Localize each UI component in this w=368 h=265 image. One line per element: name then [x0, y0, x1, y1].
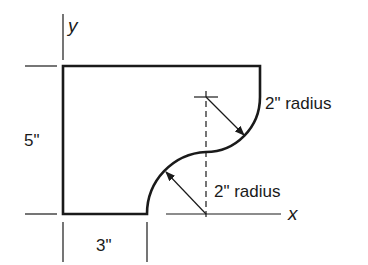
y-axis-label: y — [66, 15, 79, 36]
shape-diagram: y 5" 3" x 2" radius 2" radius — [0, 0, 368, 265]
lower-radius-label: 2" radius — [214, 182, 281, 201]
width-dimension-label: 3" — [96, 236, 112, 255]
height-dimension-label: 5" — [24, 131, 40, 150]
upper-radius-arrow — [206, 97, 244, 135]
x-axis-label: x — [287, 203, 299, 224]
upper-radius-label: 2" radius — [265, 94, 332, 113]
lower-radius-arrow — [166, 172, 206, 214]
